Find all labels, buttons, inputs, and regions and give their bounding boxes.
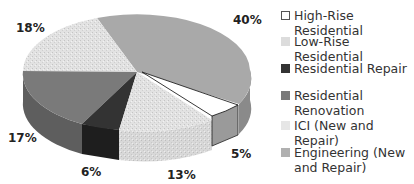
label-17: 17%: [8, 131, 37, 145]
legend-item-ici: ICI (New and Repair): [281, 118, 414, 148]
legend-item-residential-renovation: Residential Renovation: [281, 88, 414, 118]
legend-item-low-rise: Low-Rise Residential: [281, 34, 414, 64]
swatch-icon: [281, 148, 290, 157]
swatch-icon: [281, 64, 290, 73]
label-18: 18%: [16, 21, 45, 35]
label-40: 40%: [233, 13, 262, 27]
label-5: 5%: [231, 147, 251, 161]
swatch-icon: [281, 91, 290, 100]
label-6: 6%: [81, 165, 101, 179]
swatch-icon: [281, 11, 290, 20]
swatch-icon: [281, 121, 290, 130]
swatch-icon: [281, 37, 290, 46]
label-13: 13%: [167, 168, 196, 182]
legend-item-engineering: Engineering (New and Repair): [281, 145, 414, 175]
legend-item-residential-repair: Residential Repair: [281, 61, 407, 76]
